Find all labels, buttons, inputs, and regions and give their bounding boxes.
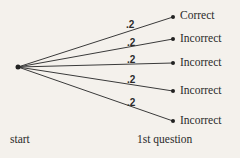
end-node-2 [171,37,175,41]
end-node-3 [171,61,175,65]
branch-line-5 [18,67,173,121]
branch-line-1 [18,17,173,67]
end-node-5 [171,119,175,123]
end-node-4 [171,89,175,93]
start-label: start [10,134,30,146]
outcome-label-4: Incorrect [180,85,222,97]
tree-lines [0,0,240,158]
branch-line-2 [18,39,173,67]
end-node-1 [171,15,175,19]
outcome-label-3: Incorrect [180,57,222,69]
outcome-label-5: Incorrect [180,115,222,127]
probability-label-3: .2 [127,55,135,65]
probability-label-5: .2 [127,98,135,108]
start-node [16,65,21,70]
outcome-label-1: Correct [180,10,214,22]
probability-label-4: .2 [127,75,135,85]
probability-label-2: .2 [127,38,135,48]
outcome-label-2: Incorrect [180,33,222,45]
branch-line-3 [18,63,173,67]
stage-label: 1st question [137,134,192,146]
branch-line-4 [18,67,173,91]
probability-label-1: .2 [126,20,134,30]
